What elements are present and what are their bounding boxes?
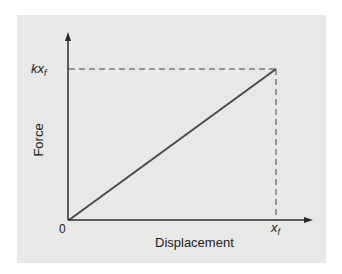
origin-label: 0 <box>59 222 66 236</box>
x-tick-xf: xf <box>270 220 282 237</box>
force-displacement-chart: 0 kxf xf Displacement Force <box>0 0 342 274</box>
y-axis-arrow-icon <box>65 32 71 41</box>
force-line <box>69 69 276 220</box>
x-axis-arrow-icon <box>304 217 313 223</box>
y-axis-label: Force <box>31 123 46 156</box>
x-axis-label: Displacement <box>155 235 234 250</box>
y-tick-kxf: kxf <box>31 61 48 78</box>
